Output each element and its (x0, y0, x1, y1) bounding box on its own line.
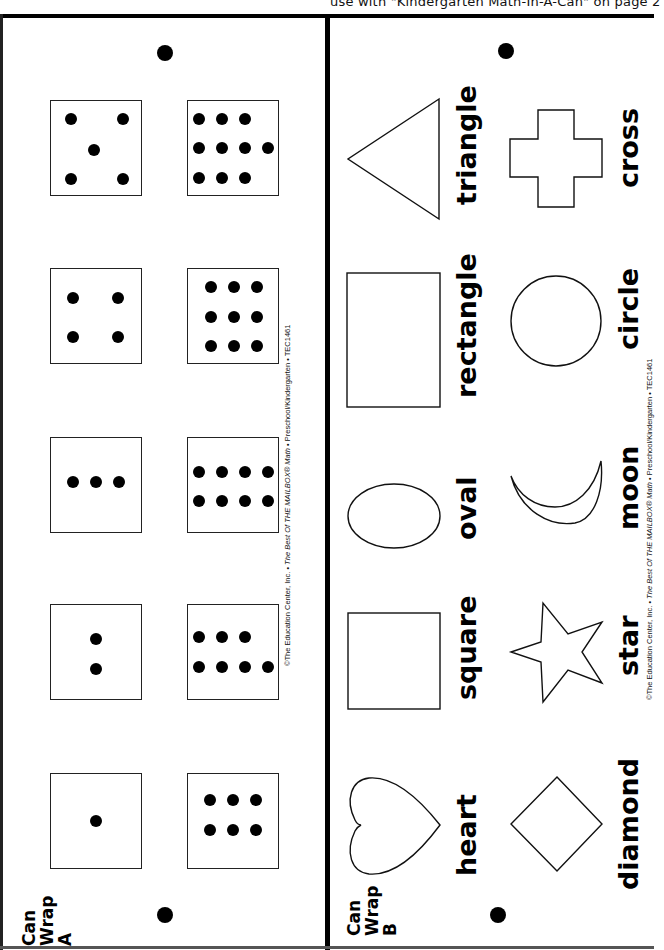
copyright-b: ©The Education Center, Inc. • The Best O… (645, 359, 655, 700)
dice-card-7 (187, 604, 279, 700)
oval-label: oval (452, 476, 482, 540)
heart-shape (347, 776, 441, 876)
punch-hole-top (498, 43, 514, 59)
can-wrap-a-title: Can Wrap A (20, 896, 74, 946)
title-line-wrap: Wrap (38, 896, 56, 946)
square-shape (348, 613, 440, 710)
dice-card-5 (50, 100, 142, 196)
title-line-letter: A (56, 896, 74, 946)
triangle-shape (347, 98, 441, 220)
diamond-label: diamond (614, 758, 644, 890)
diamond-shape (510, 776, 604, 872)
heart-label: heart (452, 794, 482, 876)
title-line-can: Can (345, 886, 363, 936)
can-wrap-b-title: Can Wrap B (345, 886, 399, 936)
cross-label: cross (614, 108, 644, 188)
moon-shape (510, 461, 604, 527)
star-shape (510, 603, 604, 703)
triangle-label: triangle (452, 85, 482, 205)
star-label: star (614, 615, 644, 676)
moon-label: moon (614, 446, 644, 530)
punch-hole-bottom (157, 907, 173, 923)
dice-card-4 (50, 268, 142, 364)
rectangle-shape (347, 273, 441, 408)
cross-shape (510, 110, 604, 208)
copyright-a: ©The Education Center, Inc. • The Best O… (283, 325, 293, 666)
dice-card-6 (187, 773, 279, 869)
usage-note-header: use with "Kindergarten Math-In-A-Can" on… (330, 0, 664, 9)
punch-hole-bottom (490, 907, 506, 923)
left-border (0, 14, 3, 950)
bottom-border (0, 946, 654, 949)
title-line-can: Can (20, 896, 38, 946)
punch-hole-top (157, 45, 173, 61)
dice-card-1 (50, 773, 142, 869)
square-label: square (452, 596, 482, 700)
circle-shape (510, 275, 604, 369)
dice-card-3 (50, 437, 142, 533)
dice-card-2 (50, 604, 142, 700)
title-line-wrap: Wrap (363, 886, 381, 936)
panel-divider (325, 14, 330, 950)
dice-card-9 (187, 268, 279, 364)
circle-label: circle (614, 268, 644, 350)
dice-card-8 (187, 437, 279, 533)
title-line-letter: B (381, 886, 399, 936)
dice-card-10 (187, 100, 279, 196)
rectangle-label: rectangle (452, 253, 482, 398)
oval-shape (347, 483, 441, 551)
